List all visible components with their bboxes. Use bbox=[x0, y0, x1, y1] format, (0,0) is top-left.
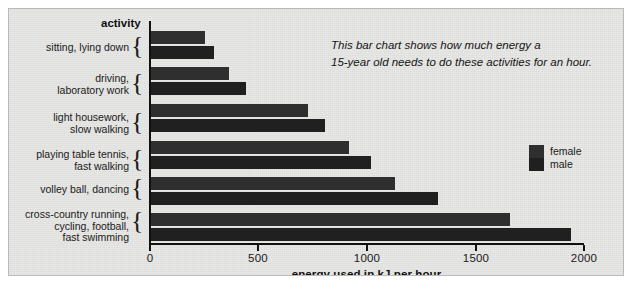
y-axis-title: activity bbox=[101, 17, 141, 29]
category-brace-1: { bbox=[131, 70, 143, 96]
bar-female-5 bbox=[151, 213, 510, 226]
category-brace-5: { bbox=[131, 208, 143, 234]
category-label-5: cross-country running, cycling, football… bbox=[8, 209, 129, 244]
bar-male-3 bbox=[151, 156, 371, 169]
category-brace-0: { bbox=[131, 33, 143, 59]
legend-swatch-female bbox=[529, 145, 544, 158]
category-label-5-line-0: cross-country running, bbox=[8, 209, 129, 221]
legend-label-female: female bbox=[550, 145, 582, 157]
chart-annotation-line-1: This bar chart shows how much energy a bbox=[331, 37, 601, 54]
bar-male-2 bbox=[151, 119, 325, 132]
bar-female-1 bbox=[151, 67, 229, 80]
category-label-1: driving, laboratory work bbox=[8, 73, 129, 96]
bar-female-3 bbox=[151, 141, 349, 154]
x-tick-2000 bbox=[583, 245, 585, 251]
bar-male-4 bbox=[151, 192, 438, 205]
legend-swatch-male bbox=[529, 158, 544, 171]
bar-male-1 bbox=[151, 82, 246, 95]
x-tick-1000 bbox=[366, 245, 368, 251]
bar-female-4 bbox=[151, 177, 395, 190]
category-label-0-line-0: sitting, lying down bbox=[8, 42, 129, 54]
category-label-2-line-0: light housework, bbox=[8, 112, 129, 124]
legend-label-male: male bbox=[550, 158, 573, 170]
category-label-5-line-2: fast swimming bbox=[8, 232, 129, 244]
category-brace-3: { bbox=[131, 146, 143, 172]
chart-annotation: This bar chart shows how much energy a 1… bbox=[331, 37, 601, 70]
x-tick-label-0: 0 bbox=[147, 252, 154, 264]
category-brace-4: { bbox=[131, 175, 143, 201]
x-tick-0 bbox=[149, 245, 151, 251]
bar-male-5 bbox=[151, 228, 571, 241]
x-tick-1500 bbox=[475, 245, 477, 251]
category-label-2-line-1: slow walking bbox=[8, 124, 129, 136]
category-label-1-line-0: driving, bbox=[8, 73, 129, 85]
x-tick-label-1500: 1500 bbox=[463, 252, 489, 264]
category-label-4: volley ball, dancing bbox=[8, 184, 129, 196]
bar-chart-figure: activity 0 500 1000 1500 2000 energy use… bbox=[8, 8, 624, 276]
x-tick-label-1000: 1000 bbox=[354, 252, 380, 264]
chart-annotation-line-2: 15-year old needs to do these activities… bbox=[331, 54, 601, 71]
bar-female-0 bbox=[151, 31, 205, 44]
x-axis-title: energy used in kJ per hour bbox=[149, 268, 584, 276]
plot-area: activity 0 500 1000 1500 2000 energy use… bbox=[9, 9, 623, 275]
category-brace-2: { bbox=[131, 109, 143, 135]
bar-male-0 bbox=[151, 46, 214, 59]
category-label-0: sitting, lying down bbox=[8, 42, 129, 54]
category-label-1-line-1: laboratory work bbox=[8, 85, 129, 97]
bar-female-2 bbox=[151, 104, 308, 117]
x-tick-label-500: 500 bbox=[248, 252, 268, 264]
x-tick-label-2000: 2000 bbox=[571, 252, 597, 264]
category-label-3: playing table tennis, fast walking bbox=[8, 149, 129, 172]
x-tick-500 bbox=[257, 245, 259, 251]
category-label-2: light housework, slow walking bbox=[8, 112, 129, 135]
category-label-3-line-0: playing table tennis, bbox=[8, 149, 129, 161]
category-label-4-line-0: volley ball, dancing bbox=[8, 184, 129, 196]
category-label-3-line-1: fast walking bbox=[8, 161, 129, 173]
